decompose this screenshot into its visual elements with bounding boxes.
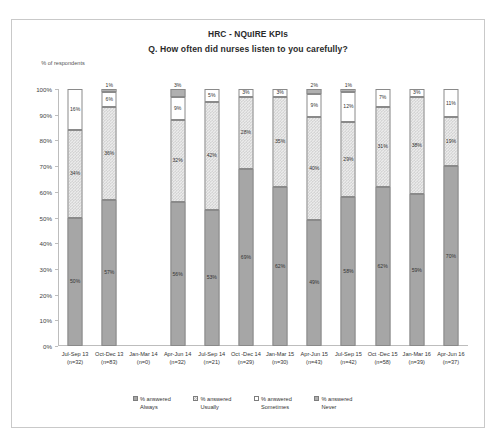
bar-slot: 62%35%3%Jan-Mar 15(n=30) <box>263 89 297 346</box>
bar-segment-sometimes[interactable]: 16% <box>68 89 83 130</box>
bar-segment-usually[interactable]: 38% <box>409 97 424 195</box>
bar-slot: 70%19%11%Apr-Jun 16(n=37) <box>434 89 468 346</box>
legend-item[interactable]: % answeredNever <box>314 395 364 411</box>
stacked-bar[interactable]: 69%28%3% <box>238 89 253 346</box>
bar-segment-usually[interactable]: 28% <box>238 97 253 169</box>
y-axis-tick-label: 90% <box>40 111 52 118</box>
bar-segment-usually[interactable]: 34% <box>68 130 83 217</box>
bar-segment-usually[interactable]: 31% <box>375 107 390 187</box>
bar-segment-usually[interactable]: 32% <box>170 120 185 202</box>
bar-segment-label: 56% <box>172 272 182 277</box>
bar-segment-always[interactable]: 49% <box>307 220 322 346</box>
bar-segment-usually[interactable]: 42% <box>204 102 219 210</box>
bar-segment-usually[interactable]: 36% <box>102 107 117 200</box>
stacked-bar[interactable]: 59%38%3% <box>409 89 424 346</box>
bar-segment-sometimes[interactable]: 3% <box>273 89 288 97</box>
bar-segment-always[interactable]: 53% <box>204 210 219 346</box>
plot-inner: 0%10%20%30%40%50%60%70%80%90%100% 50%34%… <box>58 89 468 346</box>
legend-item[interactable]: % answeredAlways <box>133 395 183 411</box>
bar-segment-label: 62% <box>377 264 387 269</box>
bar-segment-sometimes[interactable]: 3% <box>409 89 424 97</box>
bar-segment-sometimes[interactable]: 7% <box>375 89 390 107</box>
bar-segment-usually[interactable]: 19% <box>443 117 458 166</box>
y-axis-title: % of respondents <box>34 60 92 68</box>
bar-segment-label: 34% <box>70 171 80 176</box>
bar-segment-label: 42% <box>207 153 217 158</box>
bar-outside-label: 2% <box>311 82 318 88</box>
bar-segment-always[interactable]: 62% <box>375 187 390 346</box>
y-axis-title-text: % of respondents <box>41 60 85 66</box>
bar-segment-label: 53% <box>207 275 217 280</box>
legend-item[interactable]: % answeredSometimes <box>254 395 304 411</box>
bar-segment-label: 69% <box>241 255 251 260</box>
bar-segment-always[interactable]: 58% <box>341 197 356 346</box>
bar-segment-usually[interactable]: 35% <box>273 97 288 187</box>
bar-segment-always[interactable]: 59% <box>409 194 424 346</box>
bar-segment-never[interactable] <box>341 89 356 92</box>
bar-segment-never[interactable] <box>170 89 185 97</box>
y-axis-tick-label: 40% <box>40 240 52 247</box>
stacked-bar[interactable]: 56%32%9%3% <box>170 89 185 346</box>
bar-segment-always[interactable]: 69% <box>238 169 253 346</box>
bar-segment-never[interactable] <box>102 89 117 92</box>
y-axis-tick-label: 80% <box>40 137 52 144</box>
bar-segment-label: 29% <box>343 157 353 162</box>
bar-segment-label: 50% <box>70 279 80 284</box>
bar-segment-always[interactable]: 56% <box>170 202 185 346</box>
y-axis-tick-label: 60% <box>40 188 52 195</box>
bar-segment-label: 59% <box>412 268 422 273</box>
legend-item[interactable]: % answeredUsually <box>193 395 243 411</box>
y-axis-tick-label: 0% <box>43 343 52 350</box>
stacked-bar[interactable]: 62%35%3% <box>273 89 288 346</box>
stacked-bar[interactable]: 62%31%7% <box>375 89 390 346</box>
bar-segment-always[interactable]: 50% <box>68 218 83 347</box>
stacked-bar[interactable]: 49%40%9%2% <box>307 89 322 346</box>
bar-outside-label: 1% <box>345 82 352 88</box>
bar-segment-label: 38% <box>412 143 422 148</box>
bar-segment-always[interactable]: 70% <box>443 166 458 346</box>
x-axis-period: Apr-Jun 16 <box>429 350 473 358</box>
chart-legend: % answeredAlways% answeredUsually% answe… <box>12 395 484 411</box>
bar-slot: 56%32%9%3%Apr-Jun 14(n=32) <box>161 89 195 346</box>
x-axis-tick-label: Apr-Jun 16(n=37) <box>429 346 473 366</box>
bar-outside-label: 1% <box>106 82 113 88</box>
bar-segment-sometimes[interactable]: 11% <box>443 89 458 117</box>
legend-swatch-icon <box>314 396 319 401</box>
bar-segment-label: 31% <box>377 144 387 149</box>
bar-segment-usually[interactable]: 40% <box>307 117 322 220</box>
chart-container: HRC - NQuIRE KPIs Q. How often did nurse… <box>11 19 485 428</box>
bar-segment-sometimes[interactable]: 9% <box>307 94 322 117</box>
bar-segment-never[interactable] <box>307 89 322 94</box>
stacked-bar[interactable]: 57%36%6%1% <box>102 89 117 346</box>
bar-segment-sometimes[interactable]: 6% <box>102 92 117 107</box>
bar-segment-always[interactable]: 62% <box>273 187 288 346</box>
bar-outside-label: 3% <box>174 82 181 88</box>
bar-slot: 57%36%6%1%Oct-Dec 13(n=83) <box>92 89 126 346</box>
bar-segment-sometimes[interactable]: 12% <box>341 92 356 123</box>
legend-label: % answeredUsually <box>201 395 243 411</box>
stacked-bar[interactable]: 50%34%16% <box>68 89 83 346</box>
bar-segment-label: 3% <box>242 90 249 95</box>
bar-segment-always[interactable]: 57% <box>102 200 117 346</box>
stacked-bar[interactable]: 58%29%12%1% <box>341 89 356 346</box>
bar-segment-label: 32% <box>172 158 182 163</box>
legend-swatch-icon <box>133 396 138 401</box>
bar-slot: 59%38%3%Jan-Mar 16(n=39) <box>400 89 434 346</box>
y-axis-tick-label: 100% <box>36 86 52 93</box>
y-axis-tick-label: 10% <box>40 317 52 324</box>
bar-segment-label: 57% <box>104 270 114 275</box>
bar-segment-label: 36% <box>104 151 114 156</box>
y-axis-tick-label: 30% <box>40 265 52 272</box>
stacked-bar[interactable]: 53%42%5% <box>204 89 219 346</box>
bar-segment-sometimes[interactable]: 9% <box>170 97 185 120</box>
bar-segment-usually[interactable]: 29% <box>341 122 356 197</box>
bar-segment-label: 9% <box>174 106 181 111</box>
plot-area: 0%10%20%30%40%50%60%70%80%90%100% 50%34%… <box>58 89 468 346</box>
legend-swatch-icon <box>193 396 198 401</box>
bar-segment-label: 5% <box>208 93 215 98</box>
stacked-bar[interactable]: 70%19%11% <box>443 89 458 346</box>
bar-segment-sometimes[interactable]: 5% <box>204 89 219 102</box>
y-axis-tick-label: 70% <box>40 163 52 170</box>
y-axis-tick-label: 50% <box>40 214 52 221</box>
bar-segment-sometimes[interactable]: 3% <box>238 89 253 97</box>
